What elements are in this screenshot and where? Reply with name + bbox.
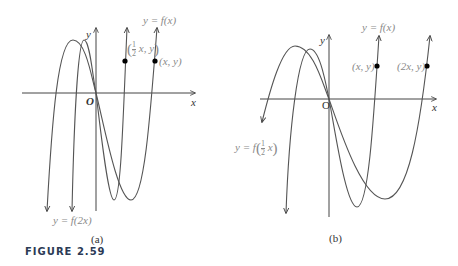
fraction: 12 — [261, 140, 265, 157]
panel-b-curve-f-half-x-label: y = f(12 x) — [235, 140, 278, 157]
panel-a-point-x — [152, 58, 157, 63]
panel-a-point-half-x — [122, 58, 127, 63]
panel-a-curve-f-x-label: y = f(x) — [143, 15, 176, 26]
panel-a-curve-f-2x-label: y = f(2x) — [53, 215, 92, 226]
panel-b-curve-f-x-label: y = f(x) — [362, 22, 395, 33]
panel-b-y-label: y — [320, 35, 325, 46]
panel-a-caption: (a) — [91, 234, 103, 245]
fraction: 12 — [132, 41, 136, 58]
panel-a-curve-f-2x — [72, 28, 127, 211]
panel-a-y-label: y — [86, 29, 91, 40]
panel-a-point-x-label: (x, y) — [159, 56, 182, 67]
panel-b-point-x — [374, 63, 379, 68]
panel-b-caption: (b) — [329, 233, 342, 244]
panel-b-origin-label: O — [322, 100, 330, 111]
panel-a-point-half-x-label: (12 x, y) — [127, 41, 159, 58]
panel-b-x-label: x — [432, 102, 437, 113]
panel-a-origin-label: O — [86, 96, 94, 107]
figure-caption: FIGURE 2.59 — [25, 246, 106, 257]
panel-a-x-label: x — [191, 97, 196, 108]
figure-canvas — [0, 0, 458, 266]
panel-b-point-2x — [424, 63, 429, 68]
panel-b-point-2x-label: (2x, y) — [397, 61, 425, 72]
panel-b-point-x-label: (x, y) — [352, 61, 375, 72]
